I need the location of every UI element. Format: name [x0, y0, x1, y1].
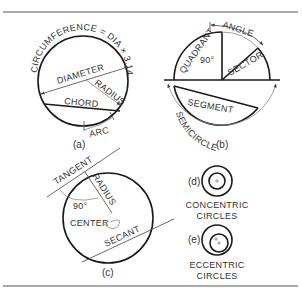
right-angle-leader — [60, 190, 98, 200]
circle-terminology-diagram: CIRCUMFERENCE = DIA × 3.1416 DIAMETER RA… — [0, 0, 302, 300]
semicircle-label: SEMICIRCLE — [174, 110, 219, 153]
caption-a: (a) — [73, 139, 85, 150]
panel-b: ANGLE QUADRANT 90° SECTOR SEGMENT SEMICI… — [164, 19, 280, 153]
panel-a: CIRCUMFERENCE = DIA × 3.1416 DIAMETER RA… — [0, 0, 135, 150]
sector-label: SECTOR — [226, 49, 265, 77]
arc-label: ARC — [88, 125, 110, 139]
caption-e: (e) — [188, 234, 200, 245]
eccentric-label-2: CIRCLES — [196, 271, 237, 281]
caption-c: (c) — [102, 267, 114, 278]
caption-b: (b) — [216, 139, 228, 150]
panel-c: TANGENT RADIUS 90° CENTER SECANT (c) — [47, 148, 174, 278]
caption-d: (d) — [188, 176, 200, 187]
circumference-label: CIRCUMFERENCE = DIA × 3.1416 — [0, 0, 135, 76]
panel-d: (d) CONCENTRIC CIRCLES — [186, 166, 249, 221]
eccentric-label-1: ECCENTRIC — [189, 260, 244, 270]
center-label: CENTER — [70, 218, 109, 228]
right-angle-label-c: 90° — [73, 201, 88, 211]
concentric-label-1: CONCENTRIC — [186, 200, 249, 210]
concentric-label-2: CIRCLES — [196, 211, 237, 221]
panel-e: (e) ECCENTRIC CIRCLES — [188, 225, 245, 281]
angle-label: ANGLE — [221, 19, 255, 38]
right-angle-label-b: 90° — [200, 55, 215, 65]
tangent-label: TANGENT — [52, 154, 95, 187]
